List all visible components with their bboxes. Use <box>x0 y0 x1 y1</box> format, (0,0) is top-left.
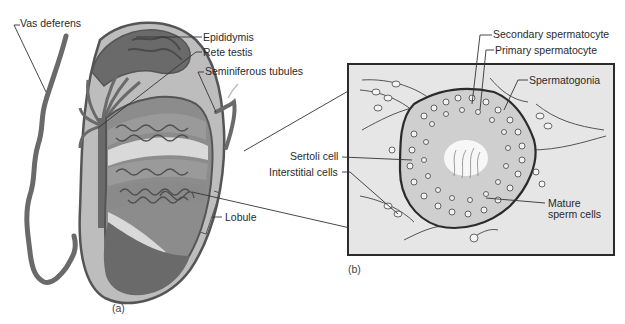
vas-deferens-tube <box>27 36 75 283</box>
label-lobule: Lobule <box>225 211 257 223</box>
label-mature-sperm-cells-2: sperm cells <box>548 208 601 220</box>
label-primary-spermatocyte: Primary spermatocyte <box>495 44 597 56</box>
label-rete-testis: Rete testis <box>203 46 253 58</box>
label-seminiferous-tubules: Seminiferous tubules <box>205 65 303 77</box>
leader-vas-deferens <box>14 25 46 92</box>
anatomy-figure: Vas deferens Epididymis Rete testis Semi… <box>0 0 625 324</box>
tubule-inset <box>348 64 614 255</box>
label-vas-deferens: Vas deferens <box>20 17 81 29</box>
tail-highlight <box>228 84 238 98</box>
panel-a-tag: (a) <box>112 302 125 314</box>
connector-upper <box>244 90 350 151</box>
label-secondary-spermatocyte: Secondary spermatocyte <box>493 28 609 40</box>
label-epididymis: Epididymis <box>203 31 254 43</box>
label-interstitial-cells: Interstitial cells <box>269 166 338 178</box>
label-spermatogonia: Spermatogonia <box>529 74 600 86</box>
tubule-lumen <box>444 140 488 176</box>
cropped-caption <box>8 316 98 324</box>
panel-b-tag: (b) <box>348 263 361 275</box>
label-sertoli-cell: Sertoli cell <box>290 150 338 162</box>
